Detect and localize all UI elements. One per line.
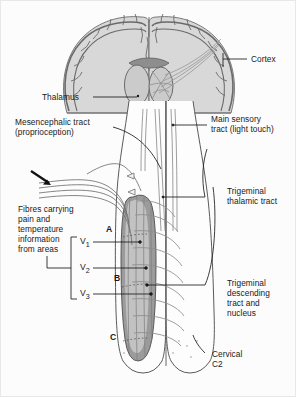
label-main-sensory-tract-line1: Main sensory: [211, 114, 261, 124]
label-cortex: Cortex: [251, 54, 276, 64]
label-trigeminal-thalamic-tract-line2: thalamic tract: [227, 196, 277, 206]
label-v2-subscript: 2: [86, 267, 90, 275]
label-zone-c: C: [110, 332, 116, 342]
label-v1: V1: [80, 236, 90, 249]
trigeminal-descending-nucleus: [121, 193, 156, 361]
label-trigeminal-thalamic-tract-line1: Trigeminal: [227, 186, 266, 196]
label-fibres-line5: from areas: [18, 244, 58, 254]
label-descending-line4: nucleus: [227, 308, 256, 318]
label-descending-line1: Trigeminal: [227, 278, 266, 288]
anatomical-figure: Cortex Thalamus Mesencephalic tract (pro…: [0, 0, 296, 397]
label-descending-line2: descending: [227, 288, 270, 298]
label-v2: V2: [80, 262, 90, 275]
label-descending-line3: tract and: [227, 298, 260, 308]
label-cervical-line2: C2: [212, 359, 223, 369]
label-zone-b: B: [114, 273, 120, 283]
label-mesencephalic-tract-line1: Mesencephalic tract: [15, 117, 90, 127]
label-fibres-line2: pain and: [18, 214, 50, 224]
label-zone-a: A: [106, 224, 112, 234]
label-v3: V3: [80, 288, 90, 301]
label-cervical-line1: Cervical: [212, 349, 242, 359]
label-v1-subscript: 1: [86, 241, 90, 249]
label-v3-subscript: 3: [86, 293, 90, 301]
label-fibres-line4: information: [18, 234, 60, 244]
label-main-sensory-tract-line2: tract (light touch): [211, 124, 274, 134]
label-mesencephalic-tract-line2: (proprioception): [15, 127, 74, 137]
label-thalamus: Thalamus: [42, 92, 79, 102]
label-fibres-line1: Fibres carrying: [18, 204, 74, 214]
label-fibres-line3: temperature: [18, 224, 63, 234]
